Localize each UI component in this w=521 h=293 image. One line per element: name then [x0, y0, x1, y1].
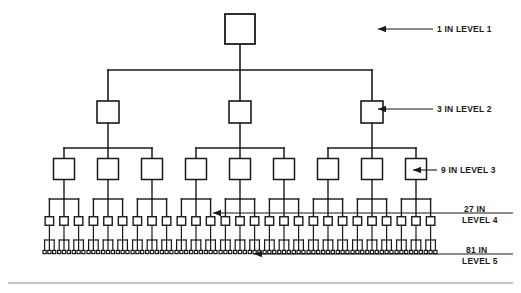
- tree-node: [106, 250, 109, 253]
- tree-node: [131, 250, 134, 253]
- tree-node: [62, 250, 65, 253]
- tree-node: [336, 250, 339, 253]
- tree-diagram: [0, 0, 521, 293]
- tree-node: [238, 250, 241, 253]
- tree-node: [234, 250, 237, 253]
- tree-node: [209, 250, 212, 253]
- tree-node: [265, 217, 274, 226]
- tree-node: [224, 250, 227, 253]
- tree-node: [136, 250, 139, 253]
- tree-node: [338, 217, 347, 226]
- tree-node: [419, 250, 422, 253]
- tree-node: [97, 250, 100, 253]
- tree-node: [221, 217, 230, 226]
- tree-node: [410, 250, 413, 253]
- tree-node: [102, 250, 105, 253]
- tree-node: [98, 159, 119, 180]
- tree-node: [150, 250, 153, 253]
- tree-node: [346, 250, 349, 253]
- tree-node: [326, 250, 329, 253]
- tree-node: [229, 250, 232, 253]
- tree-node: [307, 250, 310, 253]
- tree-node: [219, 250, 222, 253]
- tree-node: [434, 250, 437, 253]
- tree-node: [309, 217, 318, 226]
- tree-node: [111, 250, 114, 253]
- tree-node: [385, 250, 388, 253]
- tree-node: [121, 250, 124, 253]
- tree-node: [278, 250, 281, 253]
- tree-node: [146, 250, 149, 253]
- tree-node: [341, 250, 344, 253]
- tree-node: [60, 217, 69, 226]
- tree-node: [155, 250, 158, 253]
- tree-node: [324, 217, 333, 226]
- tree-node: [263, 250, 266, 253]
- tree-node: [204, 250, 207, 253]
- tree-node: [426, 217, 435, 226]
- tree-node: [175, 250, 178, 253]
- tree-node: [229, 101, 251, 123]
- tree-node: [361, 101, 383, 123]
- tree-node: [116, 250, 119, 253]
- tree-node: [87, 250, 90, 253]
- tree-node: [353, 217, 362, 226]
- tree-node: [192, 217, 201, 226]
- annotation-label-level-5-name: LEVEL 5: [462, 256, 498, 266]
- tree-node: [77, 250, 80, 253]
- tree-node: [322, 250, 325, 253]
- tree-node: [429, 250, 432, 253]
- tree-node: [318, 159, 339, 180]
- tree-node: [297, 250, 300, 253]
- tree-node: [236, 217, 245, 226]
- tree-node: [302, 250, 305, 253]
- tree-node: [375, 250, 378, 253]
- tree-node: [230, 159, 251, 180]
- tree-node: [253, 250, 256, 253]
- tree-node: [177, 217, 186, 226]
- tree-node: [282, 250, 285, 253]
- tree-node: [380, 250, 383, 253]
- tree-node: [356, 250, 359, 253]
- tree-node: [162, 217, 171, 226]
- tree-node: [317, 250, 320, 253]
- tree-node: [206, 217, 215, 226]
- tree-node: [104, 217, 113, 226]
- tree-node: [148, 217, 157, 226]
- tree-node: [397, 217, 406, 226]
- tree-node: [414, 250, 417, 253]
- tree-node: [170, 250, 173, 253]
- tree-node: [190, 250, 193, 253]
- tree-node: [92, 250, 95, 253]
- tree-node: [366, 250, 369, 253]
- annotation-label-level-4-name: LEVEL 4: [462, 215, 498, 225]
- tree-node: [118, 217, 127, 226]
- tree-node: [67, 250, 70, 253]
- annotation-label-level-1: 1 IN LEVEL 1: [437, 24, 492, 34]
- tree-node: [292, 250, 295, 253]
- tree-node: [400, 250, 403, 253]
- tree-node: [273, 250, 276, 253]
- tree-node: [250, 217, 259, 226]
- tree-node: [43, 250, 46, 253]
- figure-canvas: 1 IN LEVEL 1 3 IN LEVEL 2 9 IN LEVEL 3 2…: [0, 0, 521, 293]
- tree-node: [362, 159, 383, 180]
- tree-node: [405, 250, 408, 253]
- tree-node: [97, 101, 119, 123]
- tree-node: [370, 250, 373, 253]
- tree-node: [351, 250, 354, 253]
- tree-node: [53, 250, 56, 253]
- tree-node: [54, 159, 75, 180]
- tree-node: [294, 217, 303, 226]
- annotation-label-level-3: 9 IN LEVEL 3: [441, 165, 496, 175]
- tree-node: [225, 14, 255, 44]
- tree-node: [331, 250, 334, 253]
- tree-node: [126, 250, 129, 253]
- annotation-label-level-2: 3 IN LEVEL 2: [437, 104, 492, 114]
- tree-node: [287, 250, 290, 253]
- tree-node: [268, 250, 271, 253]
- tree-node: [58, 250, 61, 253]
- tree-node: [214, 250, 217, 253]
- tree-node: [274, 159, 295, 180]
- tree-node: [48, 250, 51, 253]
